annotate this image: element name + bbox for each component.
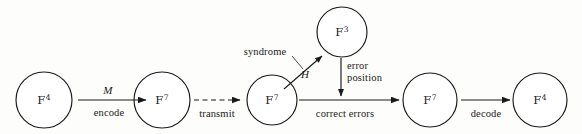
node-label-f7-encoded: F7 [155,93,169,108]
diagram-canvas: F4 F7 F7 F3 F7 F4 M encode transmit H er… [0,0,582,134]
edge-label-correct-errors: correct errors [316,108,374,119]
annotation-label-syndrome: syndrome [244,46,287,57]
edge-label-h-symbol: H [301,68,309,80]
edge-label-decode: decode [471,108,502,119]
node-label-f7-received: F7 [265,93,279,108]
node-label-f4-decoded: F4 [533,93,547,108]
node-label-f4-source: F4 [37,93,51,108]
node-label-f7-corrected: F7 [423,93,437,108]
node-label-f3-syndrome: F3 [335,25,349,40]
edge-label-encode: encode [94,107,125,118]
edge-label-transmit: transmit [199,108,235,119]
edge-label-error-position: errorposition [347,60,382,84]
edge-label-encode-symbol: M [103,84,112,96]
